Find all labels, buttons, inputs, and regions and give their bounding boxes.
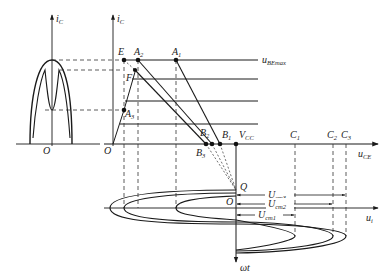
label-q: Q	[240, 181, 248, 192]
point-b2	[210, 142, 215, 147]
point-a1	[174, 58, 179, 63]
label-b3: B3	[196, 147, 206, 159]
label-a1: A1	[171, 46, 181, 58]
main-origin-label: O	[104, 145, 111, 156]
saturation-line	[113, 110, 124, 144]
point-vcc	[234, 142, 239, 147]
wt-axis-label: ωt	[240, 262, 250, 273]
ubemax-label: uBEmax	[262, 54, 286, 66]
label-c1: C1	[290, 129, 300, 141]
label-c2: C2	[327, 129, 338, 141]
main-y-axis-label: iC	[117, 13, 125, 25]
bottom-origin-label: O	[226, 196, 233, 207]
point-b3	[204, 142, 209, 147]
point-e	[122, 58, 127, 63]
b-to-q-dashed	[206, 144, 236, 190]
ui-axis-label: ui	[366, 212, 373, 224]
operating-points	[122, 58, 239, 147]
point-b1	[218, 142, 223, 147]
point-f	[133, 68, 137, 72]
label-e: E	[117, 46, 124, 57]
label-a2: A2	[133, 46, 144, 58]
label-b1: B1	[222, 129, 231, 141]
point-a2	[136, 58, 141, 63]
uce-axis-label: uCE	[358, 148, 371, 160]
label-b2: B2	[200, 127, 210, 139]
label-vcc: VCC	[239, 129, 254, 141]
label-c3: C3	[341, 129, 352, 141]
bottom-plot: ui ωt O Ucm3 Ucm2 Ucm1	[104, 188, 378, 273]
left-y-axis-label: iC	[56, 13, 64, 25]
dashed-projections-vertical	[124, 60, 346, 236]
output-characteristics	[120, 60, 258, 124]
label-a3: A3	[124, 108, 135, 120]
left-outer-pulse	[30, 60, 72, 144]
amplifier-load-line-diagram: iC O iC O uCE uBEmax	[0, 0, 389, 276]
main-plot: iC O uCE uBEmax	[104, 13, 378, 236]
left-origin-label: O	[43, 145, 50, 156]
left-inner-pulse	[33, 70, 70, 138]
label-f: F	[125, 72, 133, 83]
left-plot: iC O	[16, 13, 100, 156]
